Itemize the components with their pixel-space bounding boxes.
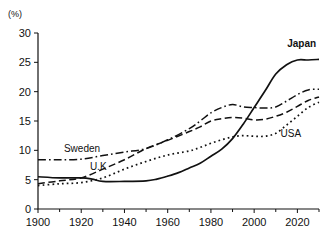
line-chart: 0510152025301900192019401960198020002020…: [0, 0, 327, 245]
chart-axes: [38, 33, 319, 209]
x-axis-tick-label: 1980: [199, 216, 223, 228]
series-label-uk: U.K: [90, 161, 107, 172]
y-axis-tick-label: 0: [25, 203, 31, 215]
y-axis-tick-label: 5: [25, 174, 31, 186]
x-axis-tick-label: 1960: [155, 216, 179, 228]
y-axis-tick-label: 25: [19, 56, 31, 68]
x-axis-tick-label: 2020: [285, 216, 309, 228]
series-label-sweden: Sweden: [64, 143, 100, 154]
series-label-usa: USA: [281, 128, 302, 139]
y-axis-tick-label: 15: [19, 115, 31, 127]
y-axis-tick-label: 10: [19, 144, 31, 156]
x-axis-tick-label: 1940: [112, 216, 136, 228]
x-axis-tick-label: 1900: [26, 216, 50, 228]
x-axis-tick-label: 2000: [242, 216, 266, 228]
chart-container: 0510152025301900192019401960198020002020…: [0, 0, 327, 245]
x-axis-tick-label: 1920: [69, 216, 93, 228]
y-axis-tick-label: 30: [19, 27, 31, 39]
series-line-japan: [38, 59, 319, 181]
y-axis-tick-label: 20: [19, 86, 31, 98]
series-label-japan: Japan: [287, 38, 316, 49]
series-line-uk: [38, 97, 319, 184]
y-axis-unit-label: (%): [8, 9, 22, 19]
